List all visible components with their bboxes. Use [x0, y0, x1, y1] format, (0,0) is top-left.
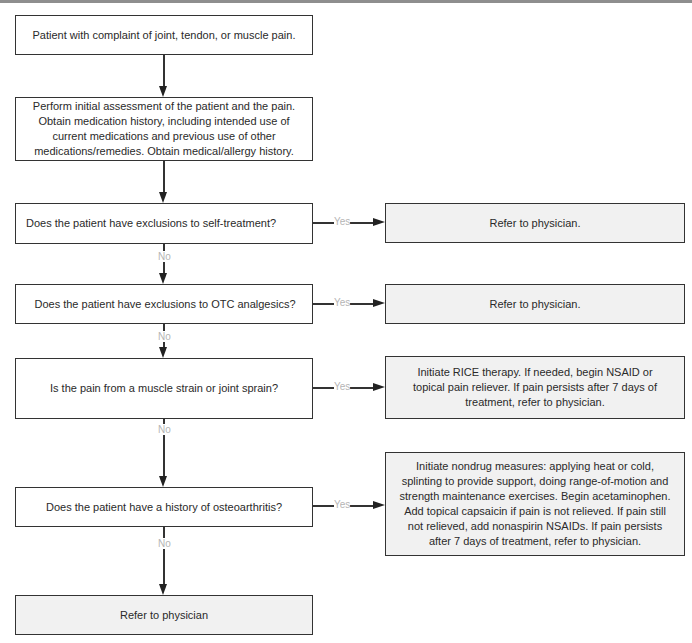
connector-line: [163, 161, 165, 193]
no-label: No: [158, 251, 171, 262]
arrow-right-icon: [373, 383, 385, 391]
arrow-down-icon: [159, 273, 167, 284]
outcome-box-refer: Refer to physician.: [385, 203, 685, 243]
no-label: No: [158, 538, 171, 549]
question-text: Does the patient have a history of osteo…: [46, 500, 282, 515]
assessment-text: Perform initial assessment of the patien…: [24, 99, 304, 159]
start-text: Patient with complaint of joint, tendon,…: [33, 28, 296, 43]
question-text: Does the patient have exclusions to self…: [26, 216, 276, 231]
question-text: Does the patient have exclusions to OTC …: [34, 297, 295, 312]
outcome-text: Initiate nondrug measures: applying heat…: [396, 459, 674, 549]
arrow-down-icon: [159, 347, 167, 358]
yes-label: Yes: [334, 381, 350, 392]
start-box: Patient with complaint of joint, tendon,…: [15, 15, 313, 55]
top-rule: [0, 0, 692, 3]
question-box-osteoarthritis: Does the patient have a history of osteo…: [15, 487, 313, 527]
final-box-refer: Refer to physician: [15, 595, 313, 635]
no-label: No: [158, 331, 171, 342]
arrow-right-icon: [373, 218, 385, 226]
no-connector: [163, 527, 165, 585]
arrow-down-icon: [159, 584, 167, 595]
arrow-down-icon: [159, 86, 167, 97]
yes-label: Yes: [334, 499, 350, 510]
outcome-box-rice: Initiate RICE therapy. If needed, begin …: [385, 356, 685, 419]
arrow-right-icon: [373, 501, 385, 509]
outcome-text: Initiate RICE therapy. If needed, begin …: [400, 365, 670, 410]
question-box-self-treatment: Does the patient have exclusions to self…: [15, 203, 313, 244]
question-box-otc-analgesics: Does the patient have exclusions to OTC …: [15, 284, 313, 324]
yes-label: Yes: [334, 216, 350, 227]
connector-line: [163, 55, 165, 87]
arrow-down-icon: [159, 476, 167, 487]
outcome-box-osteoarthritis: Initiate nondrug measures: applying heat…: [385, 452, 685, 556]
arrow-right-icon: [373, 299, 385, 307]
question-box-strain-sprain: Is the pain from a muscle strain or join…: [15, 358, 313, 419]
no-label: No: [158, 424, 171, 435]
outcome-text: Refer to physician.: [489, 297, 580, 312]
assessment-box: Perform initial assessment of the patien…: [15, 97, 313, 161]
question-text: Is the pain from a muscle strain or join…: [50, 381, 278, 396]
outcome-text: Refer to physician.: [489, 216, 580, 231]
yes-label: Yes: [334, 297, 350, 308]
arrow-down-icon: [159, 192, 167, 203]
outcome-box-refer: Refer to physician.: [385, 284, 685, 324]
final-text: Refer to physician: [120, 608, 208, 623]
